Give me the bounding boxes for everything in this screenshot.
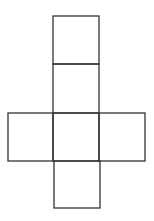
square-top	[53, 16, 99, 64]
square-center	[53, 113, 99, 161]
square-bottom	[54, 161, 100, 208]
square-right	[99, 113, 145, 161]
net-squares	[8, 16, 145, 208]
square-upper-middle	[53, 64, 99, 113]
cube-net-diagram	[0, 0, 154, 221]
square-left	[8, 113, 53, 161]
